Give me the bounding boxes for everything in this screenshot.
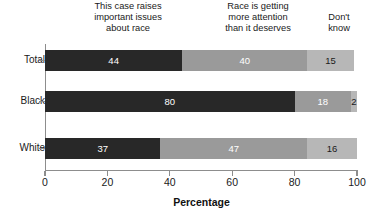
y-axis-tick-group: Total Black White (0, 44, 45, 171)
legend-label-issues-line-3: about race (58, 23, 198, 34)
x-axis-title: Percentage (45, 196, 358, 208)
x-axis-tick-group: 020406080100 (45, 171, 358, 195)
bar-segment-total-dont-know: 15 (307, 50, 354, 71)
bar-row-white: 37 47 16 (45, 138, 357, 159)
legend-label-dont-know-line-1: Don't (310, 12, 368, 23)
bar-row-total: 44 40 15 (45, 50, 357, 71)
x-tick-label-0: 0 (25, 176, 65, 188)
stacked-bar-chart: This case raises important issues about … (0, 0, 373, 217)
plot-area: 44 40 15 80 18 2 37 47 16 (45, 44, 357, 170)
x-tick-label-60: 60 (212, 176, 252, 188)
x-tick-mark-100 (356, 171, 357, 176)
bar-segment-white-attention: 47 (160, 138, 307, 159)
x-tick-label-20: 20 (87, 176, 127, 188)
x-tick-label-100: 100 (337, 176, 373, 188)
legend-label-issues-line-1: This case raises (58, 1, 198, 12)
legend-label-more-attention: Race is getting more attention than it d… (196, 1, 320, 35)
bar-segment-black-issues: 80 (45, 91, 295, 112)
bar-row-black: 80 18 2 (45, 91, 357, 112)
x-tick-mark-60 (232, 171, 233, 176)
x-tick-label-80: 80 (275, 176, 315, 188)
x-tick-mark-0 (44, 171, 45, 176)
legend-label-attention-line-3: than it deserves (196, 23, 320, 34)
legend-label-issues-about-race: This case raises important issues about … (58, 1, 198, 35)
bar-segment-white-issues: 37 (45, 138, 160, 159)
legend-label-issues-line-2: important issues (58, 12, 198, 23)
bar-segment-black-dont-know: 2 (351, 91, 357, 112)
x-tick-mark-20 (107, 171, 108, 176)
chart-column-headers: This case raises important issues about … (0, 0, 373, 44)
legend-label-dont-know: Don't know (310, 12, 368, 34)
bar-segment-black-attention: 18 (295, 91, 351, 112)
bar-segment-total-attention: 40 (182, 50, 307, 71)
bar-segment-white-dont-know: 16 (307, 138, 357, 159)
legend-label-attention-line-2: more attention (196, 12, 320, 23)
legend-label-attention-line-1: Race is getting (196, 1, 320, 12)
x-tick-mark-80 (294, 171, 295, 176)
x-tick-label-40: 40 (150, 176, 190, 188)
legend-label-dont-know-line-2: know (310, 23, 368, 34)
bar-segment-total-issues: 44 (45, 50, 182, 71)
x-tick-mark-40 (169, 171, 170, 176)
